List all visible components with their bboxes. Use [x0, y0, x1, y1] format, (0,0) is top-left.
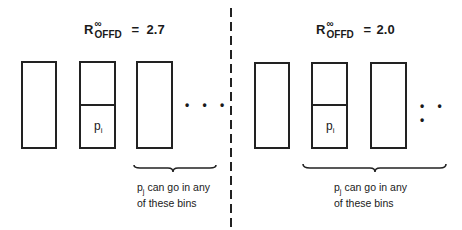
equals-sign: =	[363, 22, 371, 37]
ellipsis: • • •	[420, 99, 462, 127]
bin-2: pi	[79, 61, 116, 149]
bin-3	[136, 61, 173, 149]
bin-2: pi	[311, 62, 348, 149]
left-panel-title: R∞OFFD = 2.7	[84, 22, 165, 37]
right-brace	[303, 164, 446, 172]
bin-fill-divider	[313, 104, 346, 106]
bin-1	[254, 62, 290, 149]
left-note: pjcan go in any of these bins	[137, 180, 210, 210]
item-pi-label: pi	[326, 119, 334, 133]
ratio-subscript: OFFD	[95, 29, 122, 40]
left-brace	[134, 165, 216, 172]
ratio-superscript: ∞	[326, 18, 333, 29]
ratio-subscript: OFFD	[327, 29, 354, 40]
ratio-value: 2.0	[377, 22, 395, 37]
item-pi-label: pi	[94, 119, 102, 133]
bin-3	[370, 62, 407, 149]
right-note: pjcan go in any of these bins	[334, 180, 407, 210]
ratio-symbol: R	[316, 22, 325, 37]
right-panel-title: R∞OFFD = 2.0	[316, 22, 395, 37]
bin-fill-divider	[81, 104, 114, 106]
ratio-value: 2.7	[147, 22, 165, 37]
ratio-symbol: R	[84, 22, 93, 37]
ratio-superscript: ∞	[94, 18, 101, 29]
bin-1	[21, 61, 57, 149]
equals-sign: =	[131, 22, 139, 37]
ellipsis: • • •	[185, 98, 229, 112]
